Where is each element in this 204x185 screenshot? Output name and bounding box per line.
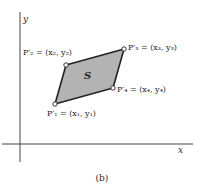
vertex-label-p4: P′₄ = (x₄, y₄) bbox=[117, 86, 166, 94]
vertex-label-p3: P′₃ = (x₃, y₃) bbox=[128, 44, 177, 52]
vertex-p4 bbox=[111, 86, 115, 90]
vertex-p1 bbox=[53, 102, 57, 106]
vertex-label-p2: P′₂ = (x₂, y₂) bbox=[23, 49, 72, 57]
diagram-canvas bbox=[0, 0, 204, 185]
y-axis-label: y bbox=[23, 15, 28, 24]
figure-caption: (b) bbox=[0, 173, 204, 183]
vertex-p2 bbox=[64, 63, 68, 67]
x-axis-label: x bbox=[178, 146, 183, 155]
region-label: S bbox=[84, 71, 91, 81]
vertex-p3 bbox=[122, 47, 126, 51]
vertex-label-p1: P′₁ = (x₁, y₁) bbox=[47, 110, 96, 118]
